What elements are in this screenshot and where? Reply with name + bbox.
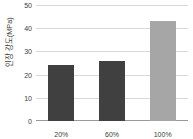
bar: [48, 65, 74, 121]
x-tick-label: 100%: [154, 131, 172, 138]
x-tick-label: 20%: [54, 131, 68, 138]
x-label-slot: 60%: [87, 123, 138, 139]
y-axis-title: 인장 강도(MPa): [4, 0, 16, 85]
y-tick-label: 0: [28, 118, 32, 125]
bar: [99, 61, 125, 121]
x-axis-tick-labels: 20%60%100%: [36, 123, 188, 139]
y-tick-label: 40: [24, 25, 32, 32]
bar-slot: [137, 5, 188, 121]
bar-slot: [36, 5, 87, 121]
x-label-slot: 20%: [36, 123, 87, 139]
bar: [150, 21, 176, 121]
y-tick-label: 10: [24, 94, 32, 101]
bars-layer: [36, 5, 188, 121]
plot-area: 01020304050: [36, 5, 188, 121]
y-tick-label: 20: [24, 71, 32, 78]
y-tick-label: 30: [24, 48, 32, 55]
y-tick-label: 50: [24, 2, 32, 9]
x-label-slot: 100%: [137, 123, 188, 139]
bar-slot: [87, 5, 138, 121]
bar-chart: 인장 강도(MPa) 01020304050 20%60%100%: [0, 0, 193, 139]
x-tick-label: 60%: [105, 131, 119, 138]
